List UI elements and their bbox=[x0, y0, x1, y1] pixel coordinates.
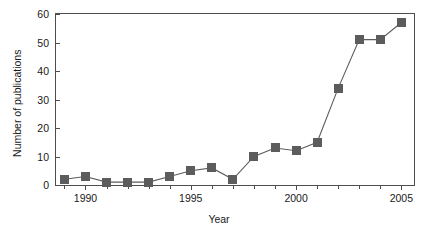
x-axis-tick bbox=[317, 185, 318, 189]
data-point-marker bbox=[102, 178, 111, 187]
y-axis-tick bbox=[56, 185, 60, 186]
x-axis-tick bbox=[338, 185, 339, 189]
y-axis-tick-label: 20 bbox=[37, 123, 49, 134]
publications-line-chart: Number of publications 01020304050601990… bbox=[0, 0, 434, 236]
x-axis-tick bbox=[359, 185, 360, 189]
data-point-marker bbox=[249, 152, 258, 161]
y-axis-tick-label: 30 bbox=[37, 94, 49, 105]
x-axis-tick bbox=[85, 185, 86, 190]
x-axis-tick bbox=[275, 185, 276, 189]
x-axis-tick-label: 2000 bbox=[284, 193, 307, 204]
x-axis-tick bbox=[233, 185, 234, 189]
y-axis-tick bbox=[56, 43, 60, 44]
data-point-marker bbox=[228, 175, 237, 184]
x-axis-tick bbox=[380, 185, 381, 189]
data-point-marker bbox=[313, 138, 322, 147]
y-axis-tick bbox=[56, 157, 60, 158]
y-axis-tick bbox=[56, 100, 60, 101]
x-axis-tick bbox=[254, 185, 255, 189]
series-polyline bbox=[64, 23, 401, 183]
x-axis-tick-label: 1990 bbox=[74, 193, 97, 204]
data-point-marker bbox=[292, 146, 301, 155]
plot-area: 01020304050601990199520002005 bbox=[55, 13, 415, 186]
x-axis-tick bbox=[170, 185, 171, 189]
x-axis-tick bbox=[191, 185, 192, 190]
x-axis-tick-label: 1995 bbox=[179, 193, 202, 204]
data-point-marker bbox=[165, 172, 174, 181]
data-point-marker bbox=[81, 172, 90, 181]
y-axis-tick-label: 40 bbox=[37, 66, 49, 77]
x-axis-tick-label: 2005 bbox=[390, 193, 413, 204]
data-point-marker bbox=[207, 163, 216, 172]
x-axis-tick bbox=[296, 185, 297, 190]
data-point-marker bbox=[144, 178, 153, 187]
y-axis-tick bbox=[56, 128, 60, 129]
y-axis-tick-label: 10 bbox=[37, 151, 49, 162]
y-axis-tick bbox=[56, 14, 60, 15]
x-axis-title: Year bbox=[0, 214, 434, 225]
data-point-marker bbox=[397, 18, 406, 27]
x-axis-tick bbox=[64, 185, 65, 189]
y-axis-tick-label: 50 bbox=[37, 37, 49, 48]
data-point-marker bbox=[186, 166, 195, 175]
x-axis-tick bbox=[212, 185, 213, 189]
data-point-marker bbox=[334, 84, 343, 93]
data-point-marker bbox=[376, 35, 385, 44]
data-point-marker bbox=[355, 35, 364, 44]
x-axis-tick bbox=[401, 185, 402, 190]
y-axis-tick bbox=[56, 71, 60, 72]
data-point-marker bbox=[271, 143, 280, 152]
x-axis-title-text: Year bbox=[208, 214, 229, 225]
data-point-marker bbox=[60, 175, 69, 184]
y-axis-tick-label: 0 bbox=[43, 180, 49, 191]
y-axis-tick-label: 60 bbox=[37, 9, 49, 20]
data-point-marker bbox=[123, 178, 132, 187]
y-axis-title: Number of publications bbox=[12, 23, 23, 183]
